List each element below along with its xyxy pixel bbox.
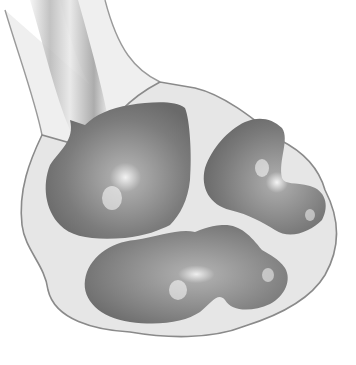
highlight xyxy=(262,268,274,282)
highlight xyxy=(102,186,122,210)
kidney-calyces-illustration xyxy=(0,0,356,365)
highlight xyxy=(305,209,315,221)
highlight xyxy=(169,280,187,300)
highlight xyxy=(255,159,269,177)
